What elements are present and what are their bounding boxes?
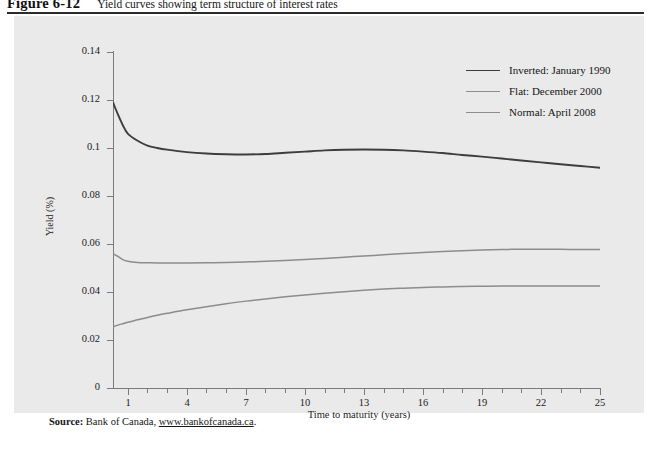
- chart-panel: 00.020.040.060.080.10.120.14 14710131619…: [14, 16, 644, 413]
- legend-item-2[interactable]: Flat: December 2000: [466, 81, 610, 102]
- x-tick-label: 7: [231, 397, 261, 408]
- x-tick-mark-minor: [384, 389, 385, 393]
- x-tick-mark: [128, 389, 129, 395]
- figure-number: Figure 6-12: [7, 0, 80, 11]
- y-tick-mark: [107, 388, 113, 389]
- x-tick-label: 1: [113, 397, 143, 408]
- legend-item-3[interactable]: Normal: April 2008: [466, 102, 610, 123]
- source-period: .: [254, 416, 257, 427]
- legend-label: Flat: December 2000: [509, 85, 602, 97]
- x-tick-mark-minor: [226, 389, 227, 393]
- chart-legend: Inverted: January 1990Flat: December 200…: [466, 60, 610, 123]
- x-tick-mark-minor: [344, 389, 345, 393]
- caption-divider: [7, 12, 644, 14]
- x-tick-mark-minor: [561, 389, 562, 393]
- source-url-link[interactable]: www.bankofcanada.ca: [159, 416, 254, 427]
- source-text: Bank of Canada,: [86, 416, 156, 427]
- figure-title: Yield curves showing term structure of i…: [97, 0, 337, 10]
- y-tick-label: 0.04: [40, 285, 100, 296]
- y-tick-label: 0.02: [40, 333, 100, 344]
- series-line-2: [113, 249, 600, 263]
- x-tick-mark: [482, 389, 483, 395]
- x-tick-label: 19: [467, 397, 497, 408]
- x-tick-label: 22: [526, 397, 556, 408]
- legend-swatch-line-icon: [466, 112, 500, 113]
- y-tick-label: 0.1: [40, 141, 100, 152]
- x-tick-mark-minor: [580, 389, 581, 393]
- y-tick-label: 0.12: [40, 93, 100, 104]
- x-tick-mark-minor: [147, 389, 148, 393]
- x-tick-mark: [541, 389, 542, 395]
- x-tick-mark-minor: [403, 389, 404, 393]
- x-tick-mark: [364, 389, 365, 395]
- x-tick-mark: [600, 389, 601, 395]
- x-tick-label: 4: [172, 397, 202, 408]
- y-tick-label: 0: [40, 381, 100, 392]
- x-tick-label: 25: [585, 397, 615, 408]
- legend-swatch-line-icon: [466, 91, 500, 92]
- x-tick-label: 10: [290, 397, 320, 408]
- x-axis-label: Time to maturity (years): [244, 409, 474, 420]
- x-tick-mark-minor: [462, 389, 463, 393]
- legend-item-1[interactable]: Inverted: January 1990: [466, 60, 610, 81]
- legend-label: Inverted: January 1990: [509, 64, 610, 76]
- x-tick-mark: [305, 389, 306, 395]
- x-tick-mark: [187, 389, 188, 395]
- x-tick-mark: [423, 389, 424, 395]
- x-tick-mark-minor: [502, 389, 503, 393]
- legend-swatch-line-icon: [466, 70, 500, 71]
- x-tick-mark-minor: [443, 389, 444, 393]
- x-tick-mark-minor: [167, 389, 168, 393]
- y-axis-label: Yield (%): [44, 172, 55, 262]
- x-tick-mark: [246, 389, 247, 395]
- figure-caption: Figure 6-12 Yield curves showing term st…: [7, 0, 338, 12]
- x-tick-mark-minor: [285, 389, 286, 393]
- x-tick-label: 16: [408, 397, 438, 408]
- x-tick-mark-minor: [521, 389, 522, 393]
- x-tick-mark-minor: [265, 389, 266, 393]
- legend-label: Normal: April 2008: [509, 106, 596, 118]
- source-label: Source:: [49, 416, 83, 427]
- x-tick-mark-minor: [325, 389, 326, 393]
- series-line-3: [113, 286, 600, 327]
- source-line: Source: Bank of Canada, www.bankofcanada…: [49, 416, 256, 427]
- y-tick-label: 0.14: [40, 45, 100, 56]
- x-tick-mark-minor: [206, 389, 207, 393]
- x-tick-label: 13: [349, 397, 379, 408]
